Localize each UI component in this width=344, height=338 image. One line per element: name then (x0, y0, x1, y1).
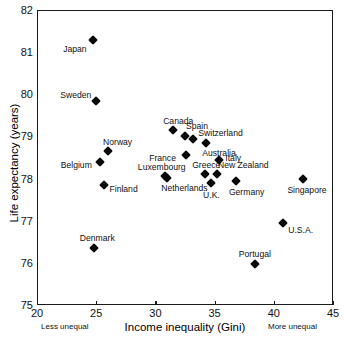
data-point-label: U.S.A. (288, 226, 313, 235)
y-tick-label: 77 (3, 215, 33, 227)
data-point-label: Greece (192, 161, 220, 170)
data-point-label: Switzerland (198, 129, 242, 138)
data-point-label: Sweden (60, 91, 91, 100)
x-tick-mark (215, 301, 216, 305)
x-tick-label: 25 (76, 307, 116, 319)
data-point-label: Portugal (239, 250, 271, 259)
x-tick-mark (333, 301, 334, 305)
x-tick-mark (274, 301, 275, 305)
x-tick-label: 35 (195, 307, 235, 319)
x-tick-mark (96, 301, 97, 305)
data-point-label: Singapore (287, 186, 326, 195)
data-point-label: New Zealand (218, 161, 269, 170)
data-point-label: Netherlands (161, 184, 207, 193)
data-point-label: Luxembourg (138, 163, 186, 172)
data-point-label: Germany (229, 188, 264, 197)
y-tick-label: 82 (3, 4, 33, 16)
x-tick-mark (37, 301, 38, 305)
data-point-label: Japan (63, 45, 86, 54)
x-tick-label: 30 (135, 307, 175, 319)
x-tick-label: 45 (313, 307, 344, 319)
y-tick-label: 80 (3, 88, 33, 100)
y-tick-label: 76 (3, 257, 33, 269)
data-point-label: Belgium (61, 161, 92, 170)
data-point-label: Norway (103, 138, 132, 147)
data-point-label: Finland (109, 185, 137, 194)
x-tick-label: 20 (17, 307, 57, 319)
data-point-label: Denmark (80, 234, 115, 243)
scatter-chart-figure: Life expectancy (years) Income inequalit… (0, 0, 344, 338)
y-tick-label: 79 (3, 130, 33, 142)
y-tick-label: 81 (3, 46, 33, 58)
y-tick-label: 78 (3, 173, 33, 185)
x-tick-label: 40 (254, 307, 294, 319)
data-point-label: U.K. (203, 191, 220, 200)
x-axis-left-note: Less unequal (41, 322, 89, 331)
x-tick-mark (155, 301, 156, 305)
x-axis-right-note: More unequal (268, 322, 317, 331)
